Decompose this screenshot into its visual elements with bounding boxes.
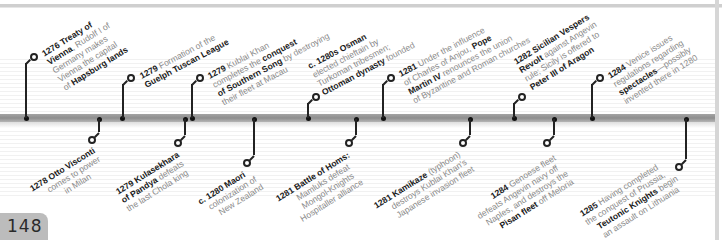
event-ring-icon	[196, 74, 204, 82]
connector-line	[469, 119, 471, 135]
connector-line	[184, 119, 186, 135]
connector-line	[98, 119, 100, 132]
event-ring-icon	[174, 139, 182, 147]
connector-line	[307, 103, 309, 118]
event-ring-icon	[675, 163, 683, 171]
page-number: 148	[7, 216, 42, 236]
event-ring-icon	[30, 53, 38, 61]
connector-line	[685, 119, 687, 159]
connector-line	[513, 103, 515, 118]
connector-line	[553, 119, 555, 135]
event-ring-icon	[387, 74, 395, 82]
connector-line	[382, 84, 384, 118]
event-ring-icon	[543, 139, 551, 147]
connector-line	[253, 119, 255, 155]
event-ring-icon	[459, 139, 467, 147]
event-ring-icon	[518, 93, 526, 101]
event-ring-icon	[596, 74, 604, 82]
connector-line	[25, 63, 27, 118]
top-border	[0, 4, 722, 8]
connector-line	[591, 84, 593, 118]
event-ring-icon	[127, 74, 135, 82]
event-ring-icon	[345, 139, 353, 147]
event-ring-icon	[312, 93, 320, 101]
right-border	[715, 0, 719, 240]
timeline-axis-shadow	[0, 122, 715, 128]
event-ring-icon	[88, 136, 96, 144]
connector-line	[355, 119, 357, 135]
timeline-page: 1276 Treaty of Vienna, Rudolf I of Germa…	[0, 0, 722, 240]
connector-line	[122, 84, 124, 118]
connector-line	[191, 84, 193, 118]
